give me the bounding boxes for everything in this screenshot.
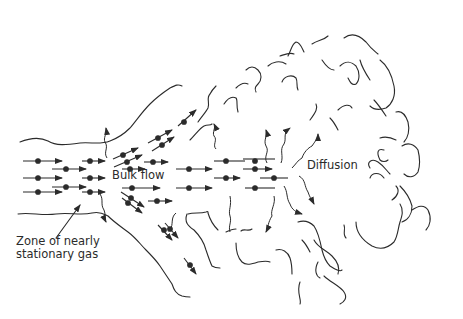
- wall-fragment: [302, 240, 310, 252]
- wall-fragment: [226, 229, 236, 232]
- wall-fragment: [299, 282, 301, 304]
- wall-fragment: [298, 221, 342, 271]
- wall-fragment: [246, 67, 261, 92]
- wall-fragment: [338, 105, 352, 110]
- wall-fragment: [412, 206, 430, 230]
- stationary-gas-zone-label: Zone of nearly stationary gas: [16, 235, 100, 261]
- wall-fragment: [198, 86, 216, 122]
- wall-fragment: [282, 76, 298, 90]
- wall-fragment: [392, 186, 398, 200]
- wall-fragment: [356, 204, 402, 248]
- wall-fragment: [241, 229, 252, 231]
- wall-fragment: [378, 149, 388, 161]
- diffusion-label: Diffusion: [307, 159, 358, 172]
- wall-fragment: [330, 118, 338, 130]
- wall-fragment: [370, 174, 384, 179]
- wall-fragment: [344, 225, 346, 238]
- bulk-flow-label: Bulk flow: [112, 169, 164, 182]
- wall-fragment: [369, 160, 390, 174]
- wall-fragment: [276, 249, 292, 274]
- wall-fragment: [396, 112, 409, 142]
- wall-fragment: [224, 97, 238, 112]
- wall-fragment: [402, 144, 420, 177]
- wall-fragment: [340, 62, 359, 84]
- wall-fragment: [236, 243, 270, 264]
- wall-fragment: [186, 214, 220, 268]
- wall-fragment: [310, 104, 317, 120]
- wall-fragment: [280, 53, 294, 56]
- wall-fragment: [316, 262, 320, 278]
- wall-fragment: [236, 83, 248, 88]
- zone-label-line2: stationary gas: [16, 248, 100, 261]
- wall-fragment: [344, 35, 378, 54]
- wall-fragment: [360, 60, 370, 80]
- wall-fragment: [188, 212, 218, 230]
- wall-fragment: [322, 60, 334, 70]
- wall-fragment: [312, 36, 328, 44]
- wall-fragment: [324, 276, 346, 304]
- wall-fragment: [268, 62, 286, 66]
- wall-fragment: [380, 137, 396, 140]
- gas-transport-diagram: [0, 0, 463, 319]
- wall-fragment: [190, 124, 212, 140]
- wall-fragment: [370, 60, 395, 109]
